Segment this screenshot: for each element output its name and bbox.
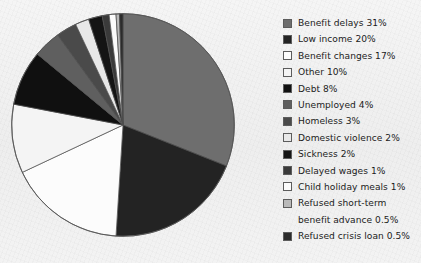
legend-item-label: Refused crisis loan 0.5% xyxy=(298,228,410,244)
legend-item[interactable]: Benefit changes 17% xyxy=(283,48,418,64)
legend-item-label: Refused short-term benefit advance 0.5% xyxy=(298,195,398,228)
legend-item-label: Other 10% xyxy=(298,64,347,80)
legend-item-label: Low income 20% xyxy=(298,31,376,47)
legend-item[interactable]: Debt 8% xyxy=(283,81,418,97)
pie-chart-figure: Benefit delays 31%Low income 20%Benefit … xyxy=(0,0,421,263)
legend-swatch-icon xyxy=(283,182,292,191)
pie-chart-svg[interactable] xyxy=(11,13,235,237)
pie-slice-group[interactable] xyxy=(12,14,235,237)
legend-item-label: Homeless 3% xyxy=(298,113,360,129)
legend-item[interactable]: Refused crisis loan 0.5% xyxy=(283,228,418,244)
legend-item-label: Sickness 2% xyxy=(298,146,355,162)
legend-item-label: Child holiday meals 1% xyxy=(298,179,405,195)
pie-chart-plot-area[interactable] xyxy=(11,13,235,237)
legend-item[interactable]: Refused short-term benefit advance 0.5% xyxy=(283,195,418,228)
legend-swatch-icon xyxy=(283,19,292,28)
legend-item-label: Benefit delays 31% xyxy=(298,15,387,31)
legend-item[interactable]: Sickness 2% xyxy=(283,146,418,162)
legend-swatch-icon xyxy=(283,35,292,44)
legend-item-label: Debt 8% xyxy=(298,81,338,97)
legend-swatch-icon xyxy=(283,133,292,142)
legend-swatch-icon xyxy=(283,117,292,126)
legend-swatch-icon xyxy=(283,84,292,93)
legend-swatch-icon xyxy=(283,150,292,159)
legend-item-label: Domestic violence 2% xyxy=(298,130,400,146)
legend-item[interactable]: Benefit delays 31% xyxy=(283,15,418,31)
legend-swatch-icon xyxy=(283,232,292,241)
legend-item[interactable]: Domestic violence 2% xyxy=(283,130,418,146)
legend-swatch-icon xyxy=(283,51,292,60)
legend-item-label: Unemployed 4% xyxy=(298,97,373,113)
legend-item[interactable]: Low income 20% xyxy=(283,31,418,47)
legend-item[interactable]: Delayed wages 1% xyxy=(283,163,418,179)
legend-item[interactable]: Homeless 3% xyxy=(283,113,418,129)
legend: Benefit delays 31%Low income 20%Benefit … xyxy=(283,15,418,244)
legend-item[interactable]: Child holiday meals 1% xyxy=(283,179,418,195)
legend-swatch-icon xyxy=(283,199,292,208)
legend-item-label: Benefit changes 17% xyxy=(298,48,395,64)
legend-swatch-icon xyxy=(283,100,292,109)
legend-swatch-icon xyxy=(283,68,292,77)
legend-item-label: Delayed wages 1% xyxy=(298,163,385,179)
legend-swatch-icon xyxy=(283,166,292,175)
legend-item[interactable]: Other 10% xyxy=(283,64,418,80)
legend-item[interactable]: Unemployed 4% xyxy=(283,97,418,113)
